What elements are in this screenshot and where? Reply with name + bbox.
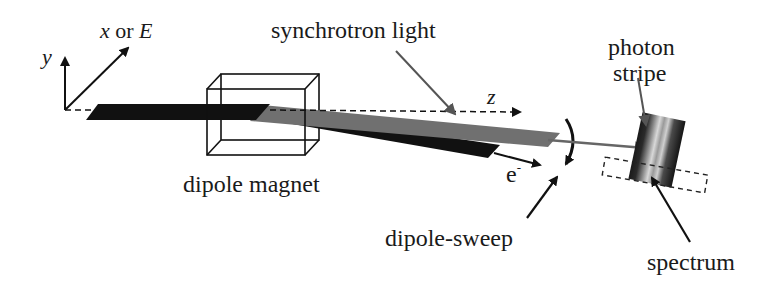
diagram-root: y x or E z dipole magnet synchrotron lig… [0, 0, 782, 284]
photon-stripe-label-line1: photon [608, 34, 675, 60]
photon-stripe-screen [628, 112, 685, 188]
dipole-sweep-pointer [527, 177, 557, 218]
synchrotron-light-label: synchrotron light [271, 17, 436, 43]
y-axis-label: y [40, 44, 52, 69]
z-axis-label: z [486, 84, 496, 109]
electron-beam-straight [86, 104, 270, 120]
synchrotron-light-pointer [396, 51, 455, 114]
dipole-sweep-label: dipole-sweep [385, 225, 513, 251]
dipole-magnet-label: dipole magnet [183, 171, 320, 197]
x-axis [65, 48, 128, 110]
electron-label: e- [506, 160, 521, 187]
x-axis-label: x or E [99, 18, 153, 43]
spectrum-label: spectrum [647, 249, 735, 275]
coordinate-axes: y x or E [40, 18, 272, 110]
light-ray-to-screen [548, 140, 645, 148]
